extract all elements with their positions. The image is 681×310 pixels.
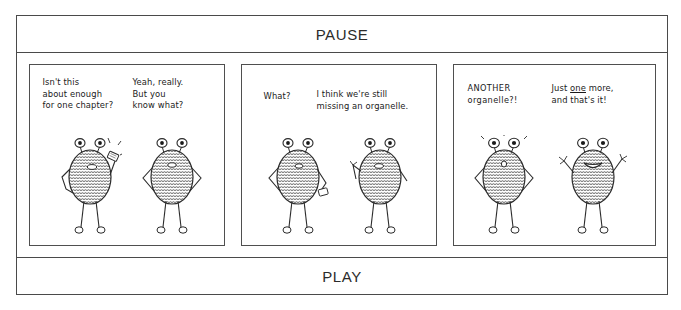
creature-figure (474, 135, 536, 239)
panel-1-dialogue-left: Isn't this about enough for one chapter? (43, 77, 114, 112)
panel-3-dialogue-left: ANOTHER organelle?! (468, 83, 518, 106)
pause-button[interactable]: PAUSE (17, 16, 667, 53)
comic-strip: Isn't this about enough for one chapter?… (17, 53, 667, 257)
creature-figure (268, 135, 330, 239)
panel-2-dialogue-right: I think we're still missing an organelle… (317, 89, 409, 112)
creature-figure (350, 135, 412, 239)
dialogue-part-emphasis: one (570, 83, 586, 93)
play-button-label: PLAY (322, 268, 362, 285)
creature-figure (60, 135, 122, 239)
comic-panel-2: What? I think we're still missing an org… (241, 64, 437, 246)
play-button[interactable]: PLAY (17, 257, 667, 294)
panel-3-dialogue-right: Just one more, and that's it! (552, 83, 614, 106)
dialogue-part-pre: Just (552, 83, 571, 93)
comic-panel-1: Isn't this about enough for one chapter?… (29, 64, 225, 246)
panel-2-dialogue-left: What? (264, 91, 291, 103)
media-viewer-frame: PAUSE Isn't this about enough for one ch… (16, 15, 668, 295)
panel-1-dialogue-right: Yeah, really. But you know what? (133, 77, 184, 112)
comic-panel-3: ANOTHER organelle?! Just one more, and t… (453, 64, 656, 246)
pause-button-label: PAUSE (316, 26, 369, 43)
creature-figure (142, 135, 204, 239)
creature-figure (558, 135, 630, 239)
screenshot-root: PAUSE Isn't this about enough for one ch… (0, 0, 681, 310)
